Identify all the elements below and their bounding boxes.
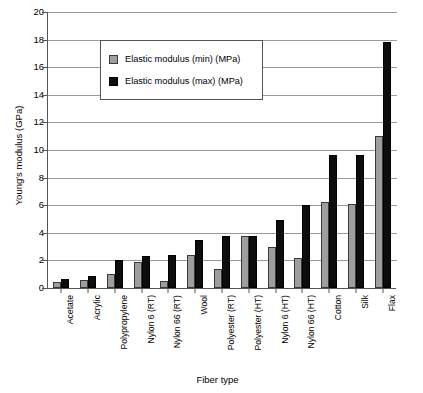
y-tick-label: 20	[4, 7, 44, 17]
bar-chart-figure: Young's modulus (GPa) 02468101214161820 …	[0, 0, 423, 393]
x-axis-ticks: AcetateAcrylicPolypropyleneNylon 6 (RT)N…	[48, 289, 396, 373]
bar-max[interactable]	[88, 276, 96, 288]
bar-max[interactable]	[329, 155, 337, 288]
x-tick-mark	[168, 289, 169, 293]
bar-group	[48, 12, 75, 288]
bar-min[interactable]	[53, 282, 61, 288]
x-tick-mark	[382, 289, 383, 293]
x-tick: Acrylic	[75, 289, 102, 373]
legend-label: Elastic modulus (max) (MPa)	[125, 76, 243, 86]
bar-min[interactable]	[187, 255, 195, 288]
y-tick-label: 16	[4, 62, 44, 72]
x-tick-mark	[221, 289, 222, 293]
bar-group	[342, 12, 369, 288]
x-tick: Flax	[369, 289, 396, 373]
bar-min[interactable]	[268, 247, 276, 288]
y-tick-label: 18	[4, 35, 44, 45]
y-tick-label: 6	[4, 200, 44, 210]
y-tick-label: 2	[4, 256, 44, 266]
bar-min[interactable]	[107, 274, 115, 288]
bar-min[interactable]	[348, 204, 356, 288]
bar-max[interactable]	[249, 236, 257, 288]
bar-max[interactable]	[276, 220, 284, 288]
bar-max[interactable]	[142, 256, 150, 288]
bar-max[interactable]	[383, 42, 391, 288]
x-tick-mark	[195, 289, 196, 293]
bar-max[interactable]	[195, 240, 203, 288]
legend-item[interactable]: Elastic modulus (min) (MPa)	[109, 50, 254, 68]
x-tick-mark	[275, 289, 276, 293]
x-tick-mark	[61, 289, 62, 293]
y-tick-label: 0	[4, 283, 44, 293]
x-tick: Nylon 6 (RT)	[128, 289, 155, 373]
bar-group	[75, 12, 102, 288]
bar-min[interactable]	[294, 258, 302, 288]
x-tick: Silk	[342, 289, 369, 373]
legend-item[interactable]: Elastic modulus (max) (MPa)	[109, 72, 254, 90]
y-tick-label: 8	[4, 173, 44, 183]
y-tick-label: 14	[4, 90, 44, 100]
x-tick-label: Flax	[387, 295, 397, 311]
bar-min[interactable]	[241, 236, 249, 288]
bar-group	[289, 12, 316, 288]
x-tick: Cotton	[316, 289, 343, 373]
bar-min[interactable]	[375, 136, 383, 288]
bar-max[interactable]	[115, 260, 123, 288]
x-tick: Acetate	[48, 289, 75, 373]
legend-swatch-min	[109, 55, 118, 64]
bar-group	[262, 12, 289, 288]
bar-min[interactable]	[80, 280, 88, 288]
y-axis-ticks: 02468101214161820	[0, 12, 44, 289]
x-tick-mark	[302, 289, 303, 293]
x-tick: Nylon 66 (HT)	[289, 289, 316, 373]
x-tick: Polyester (HT)	[235, 289, 262, 373]
bar-max[interactable]	[168, 255, 176, 288]
bar-min[interactable]	[160, 281, 168, 288]
bar-min[interactable]	[214, 269, 222, 288]
x-tick: Nylon 66 (RT)	[155, 289, 182, 373]
x-tick-mark	[114, 289, 115, 293]
x-tick: Polypropylene	[102, 289, 129, 373]
bar-max[interactable]	[356, 155, 364, 288]
bar-group	[369, 12, 396, 288]
x-tick: Nylon 6 (HT)	[262, 289, 289, 373]
y-tick-label: 10	[4, 145, 44, 155]
bar-min[interactable]	[321, 202, 329, 288]
x-axis-title: Fiber type	[45, 374, 390, 385]
bar-group	[316, 12, 343, 288]
chart-legend: Elastic modulus (min) (MPa)Elastic modul…	[100, 40, 263, 100]
x-tick-mark	[355, 289, 356, 293]
bar-max[interactable]	[302, 205, 310, 288]
legend-swatch-max	[109, 77, 118, 86]
bar-min[interactable]	[134, 262, 142, 288]
x-tick-mark	[88, 289, 89, 293]
x-tick-mark	[141, 289, 142, 293]
bar-max[interactable]	[222, 236, 230, 288]
y-tick-label: 4	[4, 228, 44, 238]
x-tick: Wool	[182, 289, 209, 373]
x-tick: Polyester (RT)	[209, 289, 236, 373]
x-tick-mark	[329, 289, 330, 293]
bar-max[interactable]	[61, 279, 69, 288]
x-tick-mark	[248, 289, 249, 293]
legend-label: Elastic modulus (min) (MPa)	[125, 54, 240, 64]
y-tick-label: 12	[4, 118, 44, 128]
